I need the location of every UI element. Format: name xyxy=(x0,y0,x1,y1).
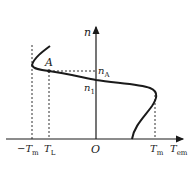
torque-speed-diagram: n A nA n1 −Tm TL O Tm Tem xyxy=(0,0,195,169)
tem-axis-label: Tem xyxy=(170,143,188,157)
operating-point-a xyxy=(47,69,51,73)
tl-label: TL xyxy=(44,143,56,157)
point-a-label: A xyxy=(44,56,53,69)
origin-label: O xyxy=(91,143,100,156)
tm-label: Tm xyxy=(150,143,164,157)
na-label: nA xyxy=(98,65,110,79)
neg-tm-label: −Tm xyxy=(17,143,39,157)
n1-label: n1 xyxy=(84,82,95,96)
n-axis-label: n xyxy=(84,26,91,39)
